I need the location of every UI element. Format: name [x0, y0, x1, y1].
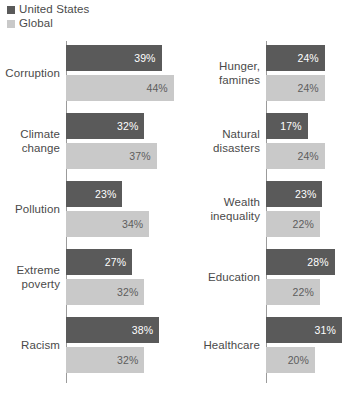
- category-label: Healthcare: [200, 338, 260, 352]
- bar-group: Wealthinequality23%22%: [200, 181, 357, 241]
- bar-us: 39%: [66, 45, 162, 71]
- bar-group: Climatechange32%37%: [0, 113, 178, 173]
- bar-value-label: 24%: [297, 52, 324, 64]
- bar-global: 24%: [266, 75, 325, 101]
- bar-value-label: 34%: [122, 218, 149, 230]
- bar-global: 32%: [66, 347, 144, 373]
- bar-global: 22%: [266, 211, 320, 237]
- bar-value-label: 28%: [307, 256, 334, 268]
- bar-us: 24%: [266, 45, 325, 71]
- bar-group: Naturaldisasters17%24%: [200, 113, 357, 173]
- bar-value-label: 31%: [315, 324, 342, 336]
- bar-value-label: 37%: [129, 150, 156, 162]
- bar-group: Healthcare31%20%: [200, 317, 357, 377]
- bar-value-label: 39%: [134, 52, 161, 64]
- bar-global: 34%: [66, 211, 149, 237]
- bar-value-label: 32%: [117, 120, 144, 132]
- category-label: Racism: [0, 338, 60, 352]
- bar-value-label: 23%: [95, 188, 122, 200]
- legend-label-united-states: United States: [19, 3, 89, 16]
- bar-value-label: 17%: [280, 120, 307, 132]
- bar-value-label: 27%: [105, 256, 132, 268]
- category-label: Extremepoverty: [0, 263, 60, 291]
- bar-us: 38%: [66, 317, 159, 343]
- bar-value-label: 20%: [288, 354, 315, 366]
- category-label: Pollution: [0, 202, 60, 216]
- bar-value-label: 32%: [117, 354, 144, 366]
- bar-global: 37%: [66, 143, 157, 169]
- bar-us: 31%: [266, 317, 342, 343]
- category-label: Education: [200, 270, 260, 284]
- bar-group: Pollution23%34%: [0, 181, 178, 241]
- bar-group: Racism38%32%: [0, 317, 178, 377]
- bar-global: 32%: [66, 279, 144, 305]
- bar-us: 32%: [66, 113, 144, 139]
- category-label: Climatechange: [0, 127, 60, 155]
- bar-us: 27%: [66, 249, 132, 275]
- category-label: Wealthinequality: [200, 195, 260, 223]
- category-label: Corruption: [0, 66, 60, 80]
- bar-value-label: 23%: [295, 188, 322, 200]
- bar-global: 22%: [266, 279, 320, 305]
- bar-us: 17%: [266, 113, 308, 139]
- legend-item-united-states: United States: [7, 3, 207, 16]
- bar-global: 24%: [266, 143, 325, 169]
- bar-group: Corruption39%44%: [0, 45, 178, 105]
- legend-item-global: Global: [7, 17, 207, 30]
- bar-us: 23%: [266, 181, 322, 207]
- bar-value-label: 24%: [297, 82, 324, 94]
- bar-us: 23%: [66, 181, 122, 207]
- legend-label-global: Global: [19, 17, 53, 30]
- bar-value-label: 24%: [297, 150, 324, 162]
- bar-value-label: 32%: [117, 286, 144, 298]
- bar-global: 20%: [266, 347, 315, 373]
- bar-value-label: 22%: [293, 286, 320, 298]
- bar-value-label: 44%: [146, 82, 173, 94]
- chart-legend: United States Global: [7, 3, 207, 31]
- bar-group: Education28%22%: [200, 249, 357, 309]
- bar-group: Extremepoverty27%32%: [0, 249, 178, 309]
- legend-swatch-global: [7, 20, 15, 28]
- bar-group: Hunger,famines24%24%: [200, 45, 357, 105]
- legend-swatch-united-states: [7, 6, 15, 14]
- category-label: Hunger,famines: [200, 59, 260, 87]
- bar-global: 44%: [66, 75, 174, 101]
- bar-value-label: 22%: [293, 218, 320, 230]
- category-label: Naturaldisasters: [200, 127, 260, 155]
- bar-us: 28%: [266, 249, 335, 275]
- bar-value-label: 38%: [132, 324, 159, 336]
